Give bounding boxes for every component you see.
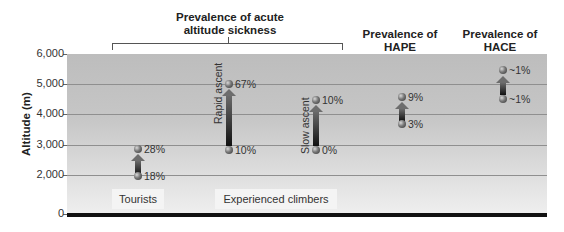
x-axis-baseline [67, 213, 547, 217]
ytick-label-5000: 5,000 [4, 77, 64, 89]
label-slow-ascent: Slow ascent [299, 97, 311, 154]
section-title-hape-line1: Prevalence of [355, 28, 445, 41]
point-tourists-bottom [134, 172, 142, 180]
ams-bracket-center [228, 37, 229, 43]
section-title-ams-line1: Prevalence of acute [150, 11, 310, 24]
ytick-label-4000: 4,000 [4, 107, 64, 119]
ytick-label-3000: 3,000 [4, 138, 64, 150]
ams-bracket-right [342, 43, 343, 50]
label-rapid-ascent: Rapid ascent [212, 63, 224, 124]
arrow-head-icon [222, 89, 236, 96]
point-tourists-top [134, 145, 142, 153]
arrow-shaft [313, 112, 319, 146]
ytick-label-0: 0 [4, 207, 64, 219]
arrow-slow-ascent [313, 105, 319, 146]
arrow-head-icon [131, 154, 145, 161]
value-hape-bottom: 3% [408, 118, 423, 130]
ams-bracket-left [112, 43, 113, 50]
value-rapid-bottom: 10% [235, 144, 256, 156]
arrow-head-icon [496, 76, 510, 83]
ytick-label-6000: 6,000 [4, 47, 64, 59]
point-hape-bottom [398, 120, 406, 128]
section-title-hace-line2: HACE [455, 41, 545, 54]
section-title-hape: Prevalence of HAPE [355, 28, 445, 54]
point-hape-top [398, 93, 406, 101]
group-label-tourists: Tourists [112, 189, 164, 209]
value-hape-top: 9% [408, 91, 423, 103]
value-hace-bottom: ~1% [509, 93, 530, 105]
value-hace-top: ~1% [509, 64, 530, 76]
point-rapid-top [225, 80, 233, 88]
section-title-hace-line1: Prevalence of [455, 28, 545, 41]
ytick-label-2000: 2,000 [4, 168, 64, 180]
value-tourists-top: 28% [144, 143, 165, 155]
point-rapid-bottom [225, 146, 233, 154]
point-hace-top [499, 66, 507, 74]
value-rapid-top: 67% [235, 78, 256, 90]
value-slow-bottom: 0% [322, 144, 337, 156]
arrow-hace [500, 76, 506, 95]
group-label-experienced-climbers: Experienced climbers [215, 189, 337, 209]
gridline-5000 [67, 84, 547, 85]
y-axis-label: Altitude (m) [20, 84, 32, 164]
section-title-hape-line2: HAPE [355, 41, 445, 54]
section-title-ams: Prevalence of acute altitude sickness [150, 11, 310, 37]
arrow-shaft [500, 83, 506, 95]
point-slow-bottom [312, 146, 320, 154]
arrow-hape [399, 102, 405, 121]
value-slow-top: 10% [322, 94, 343, 106]
section-title-hace: Prevalence of HACE [455, 28, 545, 54]
ams-bracket-horizontal [112, 43, 343, 44]
section-title-ams-line2: altitude sickness [150, 24, 310, 37]
arrow-shaft [226, 96, 232, 146]
arrow-head-icon [309, 105, 323, 112]
point-slow-top [312, 96, 320, 104]
arrow-rapid-ascent [226, 89, 232, 146]
point-hace-bottom [499, 95, 507, 103]
value-tourists-bottom: 18% [144, 170, 165, 182]
arrow-head-icon [395, 102, 409, 109]
